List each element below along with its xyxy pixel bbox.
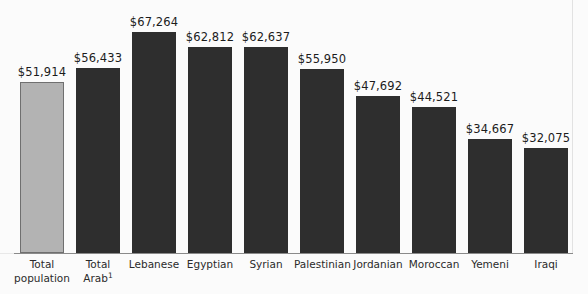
category-label-total-population: Total population xyxy=(14,258,70,285)
bar-value-label: $67,264 xyxy=(130,16,178,29)
bar-value-label: $47,692 xyxy=(354,80,402,93)
bar-rect[interactable] xyxy=(356,96,400,253)
bars-area: $51,914 $56,433 $67,264 $62,812 $62,637 … xyxy=(14,0,574,254)
bar-chart: $51,914 $56,433 $67,264 $62,812 $62,637 … xyxy=(0,0,588,294)
bar-value-label: $62,637 xyxy=(242,31,290,44)
bar-value-label: $55,950 xyxy=(298,53,346,66)
category-label-egyptian: Egyptian xyxy=(182,258,238,272)
bar-group-yemeni[interactable]: $34,667 xyxy=(468,0,512,254)
bar-rect[interactable] xyxy=(244,47,288,253)
bar-rect[interactable] xyxy=(132,32,176,253)
bar-rect[interactable] xyxy=(468,139,512,253)
category-label-jordanian: Jordanian xyxy=(350,258,406,272)
bar-group-iraqi[interactable]: $32,075 xyxy=(524,0,568,254)
bar-group-total-arab[interactable]: $56,433 xyxy=(76,0,120,254)
category-label-line2: Arab xyxy=(83,272,108,284)
bar-group-palestinian[interactable]: $55,950 xyxy=(300,0,344,254)
category-label-palestinian: Palestinian xyxy=(294,258,350,272)
bar-rect[interactable] xyxy=(20,82,64,253)
category-label-iraqi: Iraqi xyxy=(518,258,574,272)
bar-group-total-population[interactable]: $51,914 xyxy=(20,0,64,254)
bar-rect[interactable] xyxy=(300,69,344,253)
bar-value-label: $34,667 xyxy=(466,123,514,136)
bar-group-syrian[interactable]: $62,637 xyxy=(244,0,288,254)
bar-value-label: $51,914 xyxy=(18,66,66,79)
bar-group-egyptian[interactable]: $62,812 xyxy=(188,0,232,254)
bar-group-lebanese[interactable]: $67,264 xyxy=(132,0,176,254)
axis-baseline xyxy=(14,253,573,254)
bar-group-jordanian[interactable]: $47,692 xyxy=(356,0,400,254)
category-label-syrian: Syrian xyxy=(238,258,294,272)
bar-rect[interactable] xyxy=(76,68,120,253)
bar-group-moroccan[interactable]: $44,521 xyxy=(412,0,456,254)
bar-rect[interactable] xyxy=(524,148,568,253)
bar-value-label: $62,812 xyxy=(186,31,234,44)
footnote-marker: 1 xyxy=(108,270,113,279)
bar-value-label: $32,075 xyxy=(522,132,570,145)
category-label-line1: Total xyxy=(30,258,55,270)
bar-rect[interactable] xyxy=(412,107,456,253)
bar-value-label: $44,521 xyxy=(410,91,458,104)
bar-rect[interactable] xyxy=(188,47,232,253)
category-label-total-arab: Total Arab1 xyxy=(70,258,126,285)
category-labels: Total population Total Arab1 Lebanese Eg… xyxy=(14,258,574,294)
bar-value-label: $56,433 xyxy=(74,52,122,65)
category-label-line1: Total xyxy=(86,258,111,270)
category-label-lebanese: Lebanese xyxy=(126,258,182,272)
category-label-line2: population xyxy=(14,272,70,284)
category-label-yemeni: Yemeni xyxy=(462,258,518,272)
category-label-moroccan: Moroccan xyxy=(406,258,462,272)
